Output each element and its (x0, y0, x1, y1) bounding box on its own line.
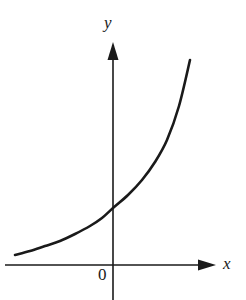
y-axis-arrowhead (108, 42, 119, 60)
coordinate-plot (0, 0, 246, 300)
x-axis-arrowhead (198, 260, 216, 271)
y-axis-label: y (104, 14, 112, 31)
origin-label: 0 (98, 266, 107, 283)
x-axis-label: x (223, 255, 231, 272)
exponential-curve (15, 60, 190, 255)
graph-figure: y x 0 (0, 0, 246, 300)
